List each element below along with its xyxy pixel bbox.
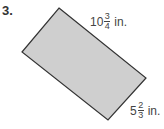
width-label: 5 2 3 in. [130,101,160,120]
width-fraction: 2 3 [138,101,144,120]
length-fraction: 3 4 [104,12,110,31]
length-label: 10 3 4 in. [90,12,127,31]
